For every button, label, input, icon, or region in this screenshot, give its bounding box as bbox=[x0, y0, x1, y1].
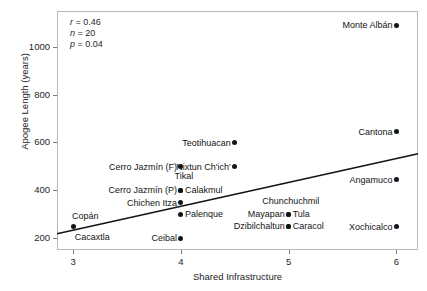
y-axis-title: Apogee Length (years) bbox=[19, 32, 30, 172]
p-symbol: p bbox=[70, 39, 75, 49]
r-value: = 0.46 bbox=[76, 17, 101, 27]
x-tick-mark bbox=[181, 250, 182, 254]
y-tick-mark bbox=[53, 47, 57, 48]
plot-area-frame bbox=[57, 11, 418, 250]
x-tick-label: 3 bbox=[53, 256, 93, 267]
x-tick-label: 5 bbox=[269, 256, 309, 267]
y-tick-label: 200 bbox=[10, 232, 50, 243]
scatter-plot-figure: Apogee Length (years) Shared Infrastruct… bbox=[0, 0, 427, 291]
statistics-annotation: r = 0.46 n = 20 p = 0.04 bbox=[70, 17, 103, 51]
y-tick-label: 400 bbox=[10, 184, 50, 195]
x-axis-title: Shared Infrastructure bbox=[57, 271, 418, 282]
x-tick-mark bbox=[73, 250, 74, 254]
y-tick-mark bbox=[53, 190, 57, 191]
correlation-stat: r = 0.46 bbox=[70, 17, 103, 28]
y-tick-label: 800 bbox=[10, 89, 50, 100]
y-tick-mark bbox=[53, 95, 57, 96]
x-tick-mark bbox=[289, 250, 290, 254]
sample-size-stat: n = 20 bbox=[70, 28, 103, 39]
p-value: = 0.04 bbox=[78, 39, 103, 49]
y-tick-mark bbox=[53, 142, 57, 143]
x-tick-mark bbox=[396, 250, 397, 254]
n-value: = 20 bbox=[78, 28, 96, 38]
y-tick-label: 1000 bbox=[10, 41, 50, 52]
y-tick-mark bbox=[53, 238, 57, 239]
p-value-stat: p = 0.04 bbox=[70, 39, 103, 50]
r-symbol: r bbox=[70, 17, 73, 27]
n-symbol: n bbox=[70, 28, 75, 38]
x-tick-label: 4 bbox=[161, 256, 201, 267]
x-tick-label: 6 bbox=[376, 256, 416, 267]
y-tick-label: 600 bbox=[10, 136, 50, 147]
